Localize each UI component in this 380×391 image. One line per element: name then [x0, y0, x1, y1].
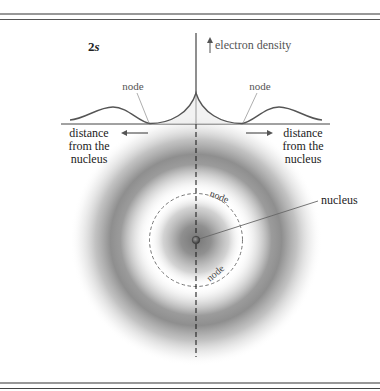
x-axis-left-label: distance from the nucleus — [69, 126, 110, 166]
x-axis-right-label: distance from the nucleus — [283, 126, 324, 166]
node-right-label: node — [249, 80, 271, 92]
svg-text:distance: distance — [283, 126, 322, 140]
y-axis-label: electron density — [215, 38, 291, 52]
orbital-label: 2s — [88, 39, 100, 54]
figure-canvas: 2s electron density node node distance f… — [0, 0, 380, 391]
svg-text:from the: from the — [283, 139, 324, 153]
node-left-label: node — [122, 80, 144, 92]
nucleus-label: nucleus — [321, 193, 358, 207]
node-right-leader — [243, 93, 257, 123]
svg-text:nucleus: nucleus — [71, 152, 108, 166]
svg-text:from the: from the — [69, 139, 110, 153]
nucleus-icon — [192, 236, 200, 244]
bottom-border — [0, 383, 380, 389]
top-border — [0, 14, 380, 20]
svg-text:distance: distance — [69, 126, 108, 140]
svg-text:nucleus: nucleus — [285, 152, 322, 166]
2s-orbital-figure: 2s electron density node node distance f… — [0, 0, 380, 391]
